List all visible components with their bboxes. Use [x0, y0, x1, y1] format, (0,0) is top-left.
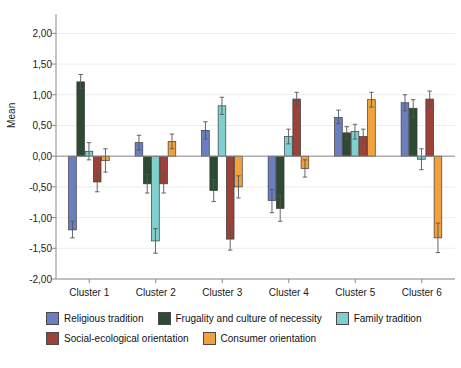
legend-label: Social-ecological orientation	[64, 333, 189, 344]
bar	[368, 100, 376, 156]
bar-chart: 2,001,501,000,500,00-0,50-1,00-1,50-2,00…	[0, 0, 461, 368]
legend-item[interactable]: Consumer orientation	[203, 332, 317, 345]
x-axis-tick-label: Cluster 4	[269, 287, 309, 298]
bar	[226, 156, 234, 239]
legend-label: Family tradition	[354, 313, 422, 324]
bar	[426, 99, 434, 156]
bar	[293, 99, 301, 156]
legend-item[interactable]: Frugality and culture of necessity	[158, 312, 322, 325]
y-axis-tick-label: -1,50	[29, 243, 56, 254]
y-axis-tick-label: -1,00	[29, 212, 56, 223]
legend-item[interactable]: Family tradition	[336, 312, 422, 325]
bar	[77, 82, 85, 156]
y-axis-tick-label: 1,50	[33, 59, 56, 70]
plot-area	[0, 0, 461, 300]
bar	[69, 156, 77, 230]
x-axis-tick-label: Cluster 6	[402, 287, 442, 298]
legend-label: Frugality and culture of necessity	[176, 313, 322, 324]
x-axis-tick-label: Cluster 3	[202, 287, 242, 298]
legend-swatch-icon	[158, 312, 171, 325]
legend-item[interactable]: Religious tradition	[46, 312, 144, 325]
y-axis-title: Mean	[6, 103, 17, 128]
x-axis-tick-label: Cluster 5	[335, 287, 375, 298]
y-axis-tick-label: 0,50	[33, 120, 56, 131]
y-axis-tick-label: 2,00	[33, 28, 56, 39]
legend-label: Religious tradition	[64, 313, 144, 324]
legend-swatch-icon	[46, 312, 59, 325]
y-axis-tick-label: 1,00	[33, 89, 56, 100]
legend-swatch-icon	[203, 332, 216, 345]
chart-legend: Religious traditionFrugality and culture…	[46, 308, 456, 348]
y-axis-tick-label: 0,00	[33, 151, 56, 162]
y-axis-tick-label: -0,50	[29, 181, 56, 192]
legend-label: Consumer orientation	[221, 333, 317, 344]
legend-swatch-icon	[336, 312, 349, 325]
y-axis-tick-label: -2,00	[29, 274, 56, 285]
x-axis-tick-label: Cluster 2	[136, 287, 176, 298]
x-axis-tick-label: Cluster 1	[69, 287, 109, 298]
legend-row: Religious traditionFrugality and culture…	[46, 308, 456, 328]
legend-item[interactable]: Social-ecological orientation	[46, 332, 189, 345]
legend-row: Social-ecological orientationConsumer or…	[46, 328, 456, 348]
legend-swatch-icon	[46, 332, 59, 345]
